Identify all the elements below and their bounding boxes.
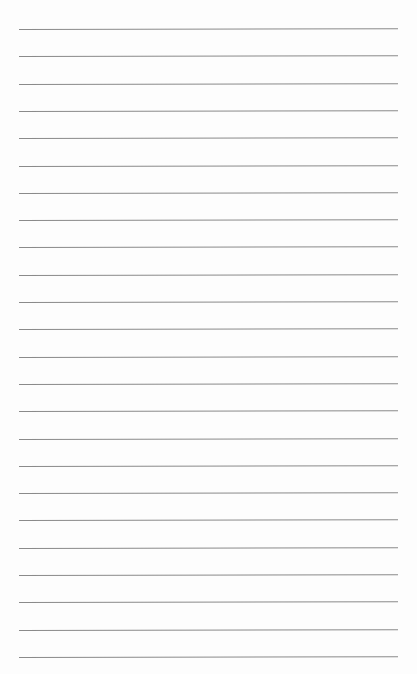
ruled-line xyxy=(19,28,398,30)
ruled-line xyxy=(19,137,398,139)
ruled-line xyxy=(19,165,398,167)
ruled-line xyxy=(19,328,398,330)
ruled-line xyxy=(19,274,398,276)
ruled-line xyxy=(19,547,398,549)
ruled-line xyxy=(19,110,398,112)
ruled-line xyxy=(19,246,398,248)
ruled-line xyxy=(19,356,398,358)
ruled-line xyxy=(19,219,398,221)
ruled-line xyxy=(19,519,398,521)
ruled-line xyxy=(19,492,398,494)
ruled-line xyxy=(19,301,398,303)
ruled-line xyxy=(19,465,398,467)
ruled-line xyxy=(19,55,398,57)
ruled-line xyxy=(19,601,398,603)
ruled-line xyxy=(19,83,398,85)
ruled-line xyxy=(19,410,398,412)
ruled-line xyxy=(19,656,398,658)
ruled-line xyxy=(19,574,398,576)
ruled-line xyxy=(19,438,398,440)
ruled-line xyxy=(19,383,398,385)
ruled-line xyxy=(19,192,398,194)
ruled-line xyxy=(19,629,398,631)
lined-paper-sheet xyxy=(0,0,417,674)
